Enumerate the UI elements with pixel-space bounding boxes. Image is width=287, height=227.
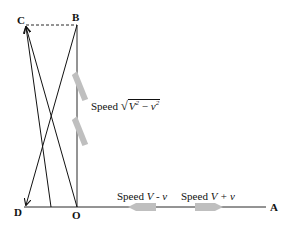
vector-o-to-c [26,27,77,207]
boat-crossing-upper [71,71,88,102]
point-label-o: O [72,209,81,221]
downstream-speed-label: Speed V + v [181,190,235,202]
boat-crossing-lower [71,116,88,147]
vector-oc [26,27,51,207]
downstream-expression: V + v [211,190,235,202]
upstream-expression: V - v [147,190,168,202]
speed-word: Speed [91,100,118,112]
big-v: V [129,100,136,112]
sqrt-icon: √ [121,98,128,113]
minus-sign: − [139,100,151,112]
sqrt-expression: √V2 − v2 [121,98,160,114]
boat-downstream [195,203,223,211]
speed-word: Speed [181,190,208,202]
point-label-a: A [270,201,278,213]
point-label-d: D [14,206,22,218]
exponent-2: 2 [156,99,160,107]
speed-word: Speed [117,190,144,202]
boat-upstream [128,203,156,211]
upstream-speed-label: Speed V - v [117,190,167,202]
vector-b-to-d [26,25,77,205]
point-label-c: C [17,14,25,26]
point-label-b: B [72,11,79,23]
crossing-speed-label: Speed √V2 − v2 [91,98,160,114]
